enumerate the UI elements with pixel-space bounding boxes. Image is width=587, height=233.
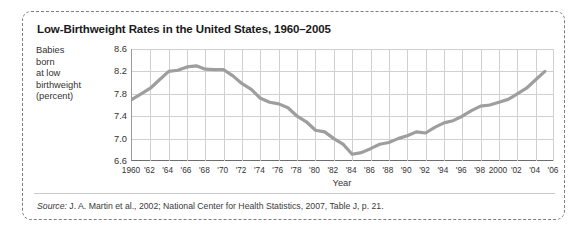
- x-tick-label: '66: [181, 165, 192, 175]
- y-axis-caption-line-4: birthweight: [36, 80, 106, 92]
- x-tick-label: '88: [382, 165, 393, 175]
- source-text: J. A. Martin et al., 2002; National Cent…: [67, 201, 384, 211]
- x-tick-label: '82: [327, 165, 338, 175]
- x-tick-label: 2000: [489, 165, 507, 175]
- y-tick-label: 7.8: [114, 89, 127, 99]
- line-chart: 6.67.07.47.88.28.6 1960'62'64'66'68'70'7…: [109, 38, 554, 188]
- x-tick-label: '04: [529, 165, 540, 175]
- y-tick-label: 8.2: [114, 66, 127, 76]
- figure-title: Low-Birthweight Rates in the United Stat…: [37, 23, 331, 35]
- x-axis-title: Year: [131, 178, 553, 188]
- x-tick-label: '70: [217, 165, 228, 175]
- y-axis-caption: Babies born at low birthweight (percent): [36, 45, 106, 103]
- figure-card: Low-Birthweight Rates in the United Stat…: [22, 11, 565, 220]
- y-tick-label: 8.6: [114, 44, 127, 54]
- x-tick-label: '92: [419, 165, 430, 175]
- y-axis-tick-labels: 6.67.07.47.88.28.6: [109, 49, 127, 161]
- x-axis-tick-labels: 1960'62'64'66'68'70'72'74'76'78'80'82'84…: [131, 165, 553, 179]
- x-tick-label: '74: [254, 165, 265, 175]
- y-axis-caption-line-3: at low: [36, 68, 106, 80]
- y-tick-label: 7.4: [114, 111, 127, 121]
- source-note: Source: J. A. Martin et al., 2002; Natio…: [37, 201, 384, 211]
- chart-svg: [132, 49, 554, 161]
- x-tick-label: '72: [236, 165, 247, 175]
- x-tick-label: '64: [162, 165, 173, 175]
- x-tick-label: '78: [291, 165, 302, 175]
- x-tick-label: '06: [548, 165, 559, 175]
- plot-area: [131, 49, 553, 161]
- x-tick-label: '94: [437, 165, 448, 175]
- x-tick-label: '76: [272, 165, 283, 175]
- x-tick-label: '02: [511, 165, 522, 175]
- x-tick-label: '62: [144, 165, 155, 175]
- x-tick-label: '90: [401, 165, 412, 175]
- x-tick-label: '98: [474, 165, 485, 175]
- source-label: Source:: [37, 201, 67, 211]
- x-tick-label: '68: [199, 165, 210, 175]
- y-axis-caption-line-2: born: [36, 57, 106, 69]
- x-tick-label: '96: [456, 165, 467, 175]
- x-tick-label: '84: [346, 165, 357, 175]
- y-tick-label: 7.0: [114, 134, 127, 144]
- y-axis-caption-line-1: Babies: [36, 45, 106, 57]
- y-axis-caption-line-5: (percent): [36, 91, 106, 103]
- data-line-low-birthweight-rate: [132, 66, 545, 154]
- x-tick-label: '80: [309, 165, 320, 175]
- source-divider: [34, 193, 555, 194]
- x-tick-label: '86: [364, 165, 375, 175]
- x-tick-label: 1960: [122, 165, 140, 175]
